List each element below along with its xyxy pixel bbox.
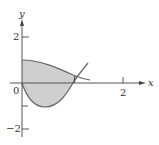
x-tick-label-2: 2: [120, 87, 126, 98]
x-axis-arrow-icon: [139, 81, 146, 85]
origin-label: 0: [13, 85, 19, 96]
y-tick-label-neg2: −2: [6, 123, 21, 134]
x-axis-label: x: [148, 77, 154, 88]
y-axis-arrow-icon: [20, 19, 24, 26]
y-tick-label-2: 2: [13, 31, 19, 42]
y-axis-label: y: [18, 8, 25, 19]
region-diagram: y x 0 2 −2 2: [0, 0, 159, 145]
